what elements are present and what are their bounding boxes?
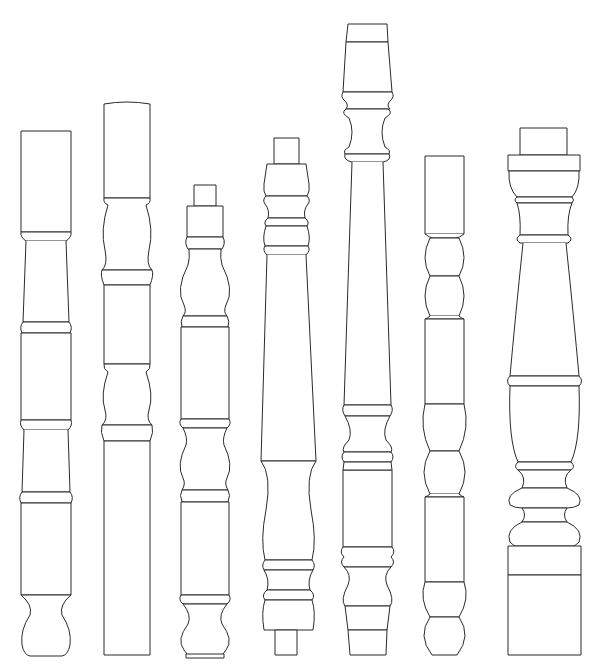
- baluster-5-segment: [343, 416, 392, 452]
- baluster-4-segment: [263, 560, 315, 570]
- baluster-7-segment: [509, 488, 580, 508]
- baluster-2-segment: [104, 102, 150, 198]
- baluster-5-segment: [345, 154, 390, 162]
- baluster-1-segment: [20, 492, 73, 503]
- baluster-5-segment: [348, 630, 387, 655]
- baluster-7-segment: [508, 546, 581, 575]
- baluster-1-segment: [21, 232, 71, 241]
- baluster-1-segment: [21, 333, 71, 420]
- baluster-5-segment: [343, 405, 393, 416]
- baluster-6-segment: [423, 582, 466, 617]
- baluster-6-segment: [425, 319, 464, 404]
- baluster-6-segment: [424, 451, 465, 494]
- baluster-7-segment: [510, 386, 580, 462]
- baluster-4-segment: [275, 630, 297, 655]
- baluster-5-segment: [342, 92, 393, 109]
- baluster-3-segment: [181, 490, 230, 502]
- baluster-4-segment: [264, 164, 310, 196]
- baluster-drawing: Seven turned balusters: [0, 0, 601, 669]
- baluster-5-segment: [344, 162, 391, 405]
- baluster-7-segment: [510, 243, 579, 376]
- baluster-1-segment: [21, 131, 71, 232]
- baluster-4-segment: [261, 255, 316, 461]
- baluster-4-segment: [264, 226, 310, 246]
- baluster-3-segment: [180, 249, 229, 316]
- baluster-4-segment: [263, 590, 313, 600]
- baluster-1-segment: [21, 503, 71, 595]
- baluster-5-segment: [343, 462, 392, 470]
- baluster-5-segment: [342, 452, 393, 462]
- baluster-6-segment: [425, 497, 464, 582]
- baluster-5-segment: [343, 470, 392, 547]
- baluster-2-segment: [104, 441, 150, 655]
- baluster-6-segment: [425, 234, 464, 238]
- balusters-group: [20, 24, 582, 658]
- baluster-1-segment: [22, 430, 70, 492]
- baluster-2-segment: [104, 285, 150, 364]
- baluster-7-segment: [515, 197, 574, 203]
- baluster-3-segment: [194, 185, 216, 206]
- baluster-6-segment: [425, 276, 464, 316]
- baluster-2-segment: [102, 198, 152, 270]
- baluster-illustration: Seven turned balusters: [0, 0, 601, 669]
- baluster-3-segment: [181, 327, 229, 419]
- baluster-6-segment: [425, 156, 464, 234]
- baluster-5-segment: [345, 606, 390, 630]
- baluster-7-segment: [517, 203, 572, 235]
- baluster-5-segment: [343, 567, 392, 606]
- baluster-6-segment: [425, 238, 464, 276]
- baluster-1-segment: [20, 420, 71, 430]
- baluster-3-segment: [187, 206, 223, 237]
- baluster-2-segment: [101, 270, 152, 285]
- baluster-7-segment: [516, 462, 574, 470]
- baluster-1-segment: [21, 322, 72, 333]
- baluster-4: [261, 138, 316, 655]
- baluster-5-segment: [343, 42, 392, 92]
- baluster-5-segment: [344, 109, 391, 154]
- baluster-1: [20, 131, 73, 656]
- baluster-7-segment: [509, 171, 579, 197]
- baluster-3: [180, 185, 230, 658]
- baluster-6-segment: [423, 404, 466, 451]
- baluster-4-segment: [274, 138, 299, 164]
- baluster-6-segment: [424, 617, 465, 655]
- baluster-2-segment: [102, 364, 152, 425]
- baluster-3-segment: [181, 604, 229, 656]
- baluster-4-segment: [264, 196, 310, 218]
- baluster-6: [423, 156, 466, 655]
- baluster-5-segment: [346, 24, 388, 42]
- baluster-3-segment: [180, 419, 230, 428]
- baluster-7-segment: [517, 235, 571, 243]
- baluster-3-segment: [186, 237, 225, 249]
- baluster-7-segment: [508, 575, 581, 655]
- baluster-4-segment: [264, 570, 313, 590]
- baluster-4-segment: [264, 246, 309, 255]
- baluster-5-segment: [341, 547, 394, 567]
- baluster-7-segment: [508, 155, 580, 171]
- baluster-7-segment: [509, 522, 580, 546]
- baluster-7-segment: [518, 470, 571, 488]
- baluster-4-segment: [261, 461, 316, 560]
- baluster-3-segment: [180, 595, 230, 604]
- baluster-1-segment: [21, 595, 71, 656]
- baluster-7-segment: [520, 128, 567, 155]
- baluster-3-segment: [181, 502, 229, 595]
- baluster-4-segment: [263, 600, 315, 630]
- baluster-3-segment: [181, 316, 229, 327]
- baluster-4-segment: [265, 218, 308, 226]
- baluster-2: [101, 102, 152, 655]
- baluster-7-segment: [522, 508, 567, 522]
- baluster-7-segment: [508, 376, 582, 386]
- baluster-3-segment: [180, 428, 230, 490]
- baluster-1-segment: [23, 241, 69, 322]
- baluster-5: [341, 24, 394, 655]
- baluster-7: [508, 128, 582, 655]
- baluster-3-segment: [186, 654, 224, 658]
- baluster-2-segment: [101, 425, 152, 441]
